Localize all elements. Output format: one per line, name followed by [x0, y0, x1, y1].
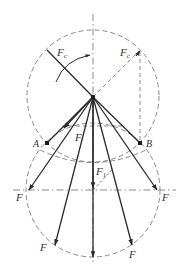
pivot-point [91, 95, 95, 99]
rotation-arrow-icon [56, 55, 90, 82]
vector-to-b [93, 97, 140, 143]
label-point-b: B [146, 138, 152, 149]
label-f-inner: F [74, 131, 82, 143]
point-a-marker [45, 141, 49, 145]
label-f-lower-right: F [128, 248, 136, 260]
fc-right-dashed-line [93, 51, 139, 97]
label-f-right: F [161, 191, 169, 203]
label-f-left: F [15, 191, 23, 203]
fc-left-vector [47, 50, 93, 97]
force-vectors [29, 97, 157, 257]
vector-f-lower-left [55, 97, 93, 245]
label-f-lower-left: F [39, 241, 47, 253]
point-b-marker [138, 141, 142, 145]
label-fc-right: Fc [119, 46, 130, 60]
label-f1: F1 [95, 165, 107, 179]
label-point-a: A [32, 138, 40, 149]
label-fc-left: Fc [56, 46, 67, 60]
force-diagram: Fc Fc F F1 A B F F F F [0, 0, 185, 277]
